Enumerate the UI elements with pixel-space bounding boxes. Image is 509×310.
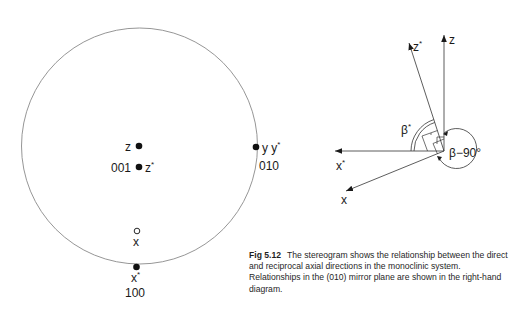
figure-number: Fig 5.12 [249,250,281,260]
arc-arrowhead-bottom [437,156,442,161]
x-axis-label: x [341,193,347,207]
pole-001 [136,164,143,171]
beta-minus-90-label: β−90° [449,146,481,160]
pole-001-label: 001 [111,161,131,175]
pole-010-label: 010 [259,159,279,173]
xstar-axis-label: x* [336,158,345,173]
pole-100-label: 100 [125,286,145,300]
z-axis-label: z [449,33,455,47]
caption-text: The stereogram shows the relationship be… [249,250,508,294]
pole-010 [253,144,260,151]
beta-star-label: β* [401,122,411,137]
figure-caption: Fig 5.12The stereogram shows the relatio… [249,250,509,295]
pole-yystar-label: y y* [262,140,280,155]
beta-star-arc-inner [414,123,435,152]
x-axis [346,151,444,191]
axes-diagram [335,35,477,191]
pole-z [136,143,143,150]
pole-x-label: x [133,235,139,249]
zstar-axis-label: z* [413,39,422,54]
pole-xstar-label: x* [131,270,140,285]
zstar-axis [409,43,444,151]
pole-x [134,228,140,234]
stereogram: z 001 z* y y* 010 x x* 100 [22,28,281,300]
pole-z-label: z [125,140,131,154]
pole-zstar-label: z* [145,160,154,175]
